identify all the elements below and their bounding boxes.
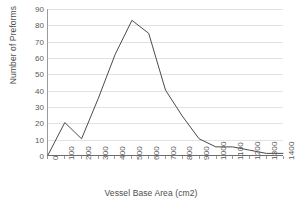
x-axis-tick-label: 300 bbox=[101, 146, 110, 160]
y-axis-tick-label: 0 bbox=[26, 152, 44, 161]
x-axis-tick bbox=[131, 156, 132, 159]
x-axis-tick bbox=[199, 156, 200, 159]
x-axis-tick bbox=[216, 156, 217, 159]
x-axis-tick-label: 700 bbox=[169, 146, 178, 160]
chart-container: Number of Preforms 0102030405060708090 0… bbox=[0, 0, 302, 207]
x-axis-tick-label: 1100 bbox=[236, 142, 245, 160]
y-axis-title: Number of Preforms bbox=[8, 0, 18, 100]
x-axis-tick-label: 1400 bbox=[287, 141, 296, 160]
x-axis-tick-label: 100 bbox=[67, 146, 76, 160]
x-axis-tick-label: 1300 bbox=[270, 141, 279, 160]
x-axis-tick bbox=[98, 156, 99, 159]
y-axis-tick-label: 20 bbox=[26, 119, 44, 128]
y-axis-tick-label: 70 bbox=[26, 37, 44, 46]
x-axis-tick-label: 600 bbox=[152, 146, 161, 160]
y-axis-tick-label: 30 bbox=[26, 103, 44, 112]
x-axis-tick-labels: 0100200300400500600700800900100011001200… bbox=[47, 160, 283, 186]
x-axis-tick bbox=[232, 156, 233, 159]
x-axis-tick bbox=[47, 156, 48, 159]
x-axis-tick-label: 200 bbox=[84, 146, 93, 160]
x-axis-tick-label: 800 bbox=[185, 146, 194, 160]
x-axis-tick-label: 1000 bbox=[219, 141, 228, 160]
x-axis-tick-label: 400 bbox=[118, 146, 127, 160]
x-axis-tick bbox=[64, 156, 65, 159]
x-axis-tick bbox=[249, 156, 250, 159]
x-axis-tick-label: 500 bbox=[135, 146, 144, 160]
y-axis-tick-label: 80 bbox=[26, 21, 44, 30]
x-axis-tick bbox=[81, 156, 82, 159]
x-axis-tick bbox=[114, 156, 115, 159]
y-axis-tick-label: 40 bbox=[26, 86, 44, 95]
x-axis-tick bbox=[266, 156, 267, 159]
plot-area bbox=[47, 9, 283, 156]
x-axis-tick bbox=[283, 156, 284, 159]
x-axis-tick bbox=[165, 156, 166, 159]
y-axis-tick-label: 90 bbox=[26, 5, 44, 14]
x-axis-tick bbox=[148, 156, 149, 159]
y-axis-tick-label: 10 bbox=[26, 135, 44, 144]
x-axis-tick-label: 1200 bbox=[253, 141, 262, 160]
data-series-line bbox=[48, 9, 283, 155]
x-axis-title: Vessel Base Area (cm2) bbox=[0, 188, 302, 198]
x-axis-tick-label: 0 bbox=[51, 155, 60, 160]
x-axis-tick bbox=[182, 156, 183, 159]
y-axis-tick-label: 60 bbox=[26, 54, 44, 63]
x-axis-tick-label: 900 bbox=[202, 146, 211, 160]
y-axis-tick-label: 50 bbox=[26, 70, 44, 79]
y-axis-tick-labels: 0102030405060708090 bbox=[26, 9, 44, 156]
